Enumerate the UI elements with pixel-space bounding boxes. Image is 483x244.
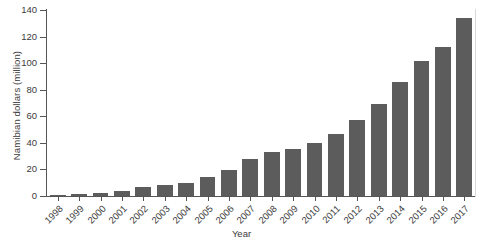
x-axis-tick xyxy=(357,197,358,201)
y-axis-tick-label: 140 xyxy=(21,4,37,15)
x-axis-tick-label: 2009 xyxy=(277,203,300,226)
y-axis-title: Namibian dollars (million) xyxy=(11,21,22,191)
y-axis-tick: 20 xyxy=(40,169,46,170)
x-axis-tick xyxy=(79,197,80,201)
x-axis-tick xyxy=(229,197,230,201)
bar xyxy=(135,187,151,196)
x-axis-tick-label: 2005 xyxy=(192,203,215,226)
x-axis-tick-label: 2013 xyxy=(363,203,386,226)
x-axis-tick-label: 2006 xyxy=(213,203,236,226)
y-axis-tick: 80 xyxy=(40,90,46,91)
y-axis-tick-label: 40 xyxy=(26,137,37,148)
x-axis-tick xyxy=(250,197,251,201)
plot-area xyxy=(47,10,475,196)
x-axis-tick-label: 2012 xyxy=(341,203,364,226)
x-axis-tick-label: 2004 xyxy=(170,203,193,226)
x-axis-tick-label: 2010 xyxy=(299,203,322,226)
bar xyxy=(456,18,472,196)
y-axis-tick-label: 0 xyxy=(32,190,37,201)
x-axis-tick-label: 2003 xyxy=(149,203,172,226)
y-axis-tick: 100 xyxy=(40,63,46,64)
x-axis-tick xyxy=(58,197,59,201)
x-axis-tick xyxy=(143,197,144,201)
bar xyxy=(157,185,173,196)
x-axis-tick-label: 2014 xyxy=(384,203,407,226)
x-axis-tick xyxy=(443,197,444,201)
x-axis-tick xyxy=(400,197,401,201)
y-axis-tick-label: 80 xyxy=(26,84,37,95)
x-axis-tick xyxy=(186,197,187,201)
bar xyxy=(264,152,280,196)
x-axis-tick xyxy=(336,197,337,201)
bar xyxy=(328,134,344,196)
bar xyxy=(178,183,194,196)
bar xyxy=(50,195,66,196)
x-axis-tick-label: 2008 xyxy=(256,203,279,226)
x-axis-tick-label: 1998 xyxy=(42,203,65,226)
bar xyxy=(114,191,130,196)
y-axis-tick: 120 xyxy=(40,37,46,38)
bar xyxy=(392,82,408,196)
y-axis-tick: 40 xyxy=(40,143,46,144)
y-axis-tick: 0 xyxy=(40,196,46,197)
y-axis-tick: 140 xyxy=(40,10,46,11)
x-axis-tick xyxy=(293,197,294,201)
x-axis-tick-label: 2016 xyxy=(427,203,450,226)
x-axis-tick-label: 2015 xyxy=(406,203,429,226)
x-axis-title: Year xyxy=(0,228,483,239)
bar xyxy=(93,193,109,196)
x-axis-tick-label: 1999 xyxy=(63,203,86,226)
bar xyxy=(285,149,301,196)
bar xyxy=(221,170,237,196)
x-axis-tick xyxy=(422,197,423,201)
x-axis-tick xyxy=(379,197,380,201)
bar xyxy=(349,120,365,196)
bar xyxy=(307,143,323,196)
x-axis-tick xyxy=(165,197,166,201)
y-axis-tick-label: 120 xyxy=(21,31,37,42)
bar xyxy=(200,177,216,196)
bar xyxy=(414,61,430,197)
x-axis-tick-label: 2002 xyxy=(127,203,150,226)
bar xyxy=(435,47,451,196)
y-axis-tick: 60 xyxy=(40,116,46,117)
x-axis-tick xyxy=(272,197,273,201)
bar xyxy=(71,194,87,196)
x-axis-tick-label: 2000 xyxy=(85,203,108,226)
x-axis-tick-label: 2017 xyxy=(448,203,471,226)
y-axis-tick-label: 20 xyxy=(26,163,37,174)
x-axis-tick-label: 2007 xyxy=(234,203,257,226)
x-axis-tick xyxy=(101,197,102,201)
plot-right-spine xyxy=(475,9,476,197)
x-axis-tick xyxy=(208,197,209,201)
bar xyxy=(371,104,387,196)
y-axis-tick-label: 60 xyxy=(26,110,37,121)
bar xyxy=(242,159,258,196)
x-axis-tick xyxy=(464,197,465,201)
x-axis-spine xyxy=(46,196,476,197)
x-axis-tick-label: 2011 xyxy=(320,203,342,225)
x-axis-tick xyxy=(122,197,123,201)
y-axis-tick-label: 100 xyxy=(21,57,37,68)
x-axis-tick-label: 2001 xyxy=(106,203,129,226)
x-axis-tick xyxy=(315,197,316,201)
bar-chart-figure: Namibian dollars (million) 0204060801001… xyxy=(0,0,483,244)
